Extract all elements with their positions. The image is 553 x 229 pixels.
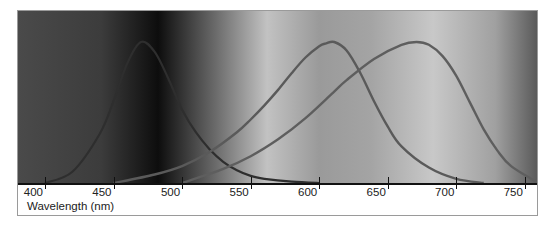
x-tick-label: 700 — [414, 186, 454, 198]
x-tick-700 — [456, 177, 457, 189]
x-tick-label: 600 — [277, 186, 317, 198]
x-tick-label: 550 — [209, 186, 249, 198]
x-axis-line — [18, 183, 537, 185]
spectral-sensitivity-chart: 400450500550600650700750 Wavelength (nm) — [17, 10, 538, 216]
x-tick-label: 450 — [72, 186, 112, 198]
x-tick-400 — [45, 177, 46, 189]
x-tick-450 — [114, 177, 115, 189]
x-tick-label: 400 — [3, 186, 43, 198]
x-axis-label: Wavelength (nm) — [27, 200, 114, 212]
curves-svg — [18, 11, 537, 184]
x-tick-650 — [388, 177, 389, 189]
x-tick-550 — [251, 177, 252, 189]
spectrum-background — [18, 11, 537, 184]
x-tick-label: 500 — [140, 186, 180, 198]
x-tick-label: 650 — [346, 186, 386, 198]
x-tick-600 — [319, 177, 320, 189]
x-tick-750 — [525, 177, 526, 189]
plot-area — [18, 11, 537, 184]
x-tick-label: 750 — [483, 186, 523, 198]
x-tick-500 — [182, 177, 183, 189]
